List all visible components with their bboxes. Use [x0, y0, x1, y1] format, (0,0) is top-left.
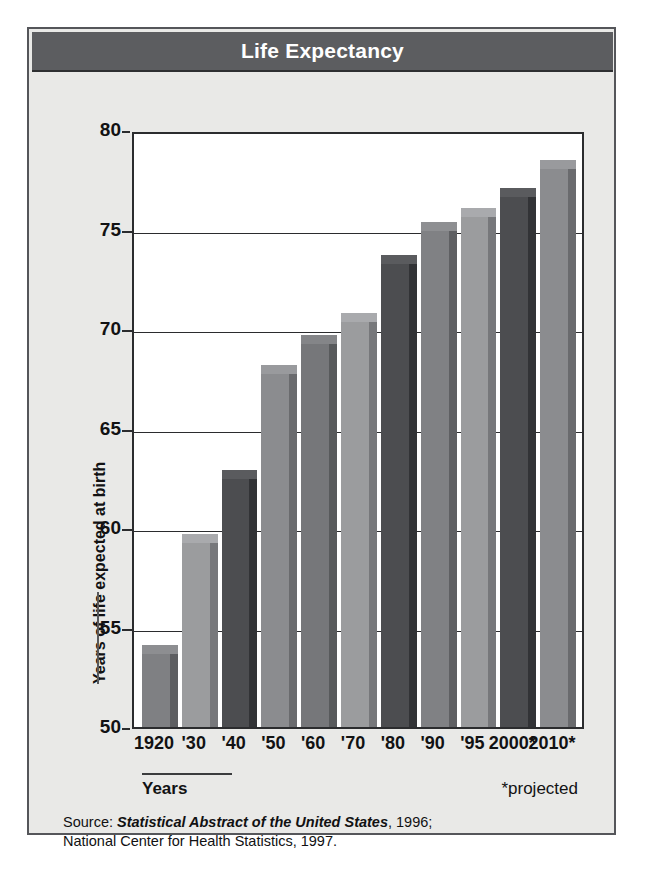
bar-40	[222, 470, 250, 727]
bar-side	[528, 197, 536, 727]
bar-2000	[500, 188, 528, 727]
bar-70	[341, 313, 369, 727]
bar-top	[301, 335, 337, 344]
bar-1920	[142, 645, 170, 727]
bar-top	[222, 470, 258, 479]
bar-side	[488, 217, 496, 727]
y-axis-title: Years of life expected at birth	[91, 462, 109, 684]
bar-front	[182, 534, 210, 727]
bar-top	[540, 160, 576, 169]
bar-side	[568, 169, 576, 727]
bar-side	[409, 264, 417, 727]
bar-side	[329, 344, 337, 727]
bar-60	[301, 335, 329, 727]
bar-side	[210, 543, 218, 727]
bar-front	[421, 222, 449, 727]
projected-footnote: *projected	[501, 779, 578, 799]
y-tick-label-60: 60	[77, 517, 121, 539]
bar-front	[341, 313, 369, 727]
bar-front	[500, 188, 528, 727]
bar-top	[341, 313, 377, 322]
y-tick-mark-60	[122, 529, 132, 531]
bar-side	[369, 322, 377, 727]
y-tick-mark-50	[122, 728, 130, 730]
bar-front	[142, 645, 170, 727]
y-tick-label-75: 75	[77, 219, 121, 241]
bar-front	[540, 160, 568, 727]
x-tick-label-2010: 2010*	[526, 733, 578, 754]
x-axis-title-rule	[142, 773, 232, 775]
x-axis-ticks: 1920'30'40'50'60'70'80'90'952000*2010*	[132, 733, 584, 759]
y-tick-label-80: 80	[77, 119, 121, 141]
source-note: Source: Statistical Abstract of the Unit…	[63, 813, 432, 851]
bar-top	[182, 534, 218, 543]
bar-top	[421, 222, 457, 231]
bar-90	[421, 222, 449, 727]
bar-top	[142, 645, 178, 654]
chart-title-bar: Life Expectancy	[32, 32, 613, 72]
y-tick-mark-75	[122, 231, 132, 233]
plot-area	[132, 132, 584, 729]
y-tick-label-55: 55	[77, 617, 121, 639]
y-tick-label-70: 70	[77, 318, 121, 340]
bar-front	[222, 470, 250, 727]
y-tick-mark-55	[122, 629, 132, 631]
plot-region	[132, 132, 584, 729]
bar-80	[381, 255, 409, 727]
y-tick-mark-80	[122, 131, 130, 133]
source-publication: Statistical Abstract of the United State…	[117, 814, 388, 830]
bar-front	[301, 335, 329, 727]
bar-side	[170, 654, 178, 727]
y-tick-label-50: 50	[77, 716, 121, 738]
bar-front	[261, 365, 289, 727]
source-line-2: National Center for Health Statistics, 1…	[63, 832, 432, 851]
y-tick-label-65: 65	[77, 418, 121, 440]
bar-side	[249, 479, 257, 727]
y-tick-mark-70	[122, 330, 132, 332]
bar-95	[461, 208, 489, 727]
page-title: Life Expectancy	[241, 39, 404, 63]
source-line-1: Source: Statistical Abstract of the Unit…	[63, 813, 432, 832]
bar-top	[381, 255, 417, 264]
bar-top	[461, 208, 497, 217]
source-prefix: Source:	[63, 814, 117, 830]
bar-30	[182, 534, 210, 727]
bar-front	[461, 208, 489, 727]
bar-50	[261, 365, 289, 727]
y-tick-mark-65	[122, 430, 132, 432]
bar-side	[289, 374, 297, 727]
bar-top	[500, 188, 536, 197]
chart-figure: Life Expectancy Years of life expected a…	[27, 27, 616, 835]
bar-side	[449, 231, 457, 727]
bar-front	[381, 255, 409, 727]
source-year: , 1996;	[388, 814, 432, 830]
bar-top	[261, 365, 297, 374]
x-axis-title: Years	[142, 779, 187, 799]
bar-2010	[540, 160, 568, 727]
